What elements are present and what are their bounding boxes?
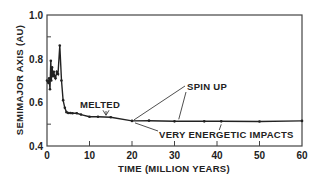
- data-point: [48, 77, 51, 80]
- semimajor-axis-chart: 01020304050600.40.60.81.0 SEMIMAJOR AXIS…: [0, 0, 318, 182]
- annotation-melted: MELTED: [80, 99, 120, 110]
- data-point: [50, 60, 53, 63]
- data-point: [75, 112, 78, 115]
- data-point: [71, 112, 74, 115]
- x-tick-label: 60: [296, 150, 308, 161]
- series-line: [47, 46, 302, 122]
- y-tick-label: 0.6: [29, 97, 43, 108]
- x-axis-title: TIME (MILLION YEARS): [118, 163, 230, 174]
- x-tick-label: 10: [84, 150, 96, 161]
- data-point: [62, 99, 65, 102]
- annotations: [103, 86, 221, 131]
- y-tick-label: 0.4: [29, 141, 43, 152]
- data-point: [131, 120, 134, 123]
- data-point: [148, 119, 151, 122]
- data-point: [49, 88, 52, 91]
- data-point: [50, 79, 53, 82]
- data-point: [258, 120, 261, 123]
- data-point: [64, 106, 67, 109]
- x-tick-label: 30: [169, 150, 181, 161]
- annotation-spin-up: SPIN UP: [187, 81, 227, 92]
- data-point: [60, 79, 63, 82]
- data-point: [203, 120, 206, 123]
- y-tick-label: 1.0: [29, 10, 43, 21]
- data-point: [54, 77, 57, 80]
- x-tick-label: 50: [254, 150, 266, 161]
- data-point: [173, 120, 176, 123]
- data-point: [80, 113, 83, 116]
- data-point: [51, 66, 54, 69]
- plot-border: [47, 15, 302, 146]
- plot-frame: [47, 15, 302, 146]
- data-point: [53, 70, 56, 73]
- data-point: [57, 73, 60, 76]
- data-point: [109, 116, 112, 119]
- data-point: [58, 44, 61, 47]
- x-tick-label: 20: [126, 150, 138, 161]
- x-tick-label: 40: [211, 150, 223, 161]
- x-tick-label: 0: [44, 150, 50, 161]
- data-point: [88, 115, 91, 118]
- annotation-very-energetic-impacts: VERY ENERGETIC IMPACTS: [159, 129, 294, 140]
- data-point: [47, 81, 50, 84]
- data-point: [97, 115, 100, 118]
- y-axis-title: SEMIMAJOR AXIS (AU): [14, 25, 25, 135]
- data-point: [46, 79, 49, 82]
- y-tick-label: 0.8: [29, 54, 43, 65]
- data-point: [55, 70, 58, 73]
- data-point: [220, 120, 223, 123]
- data-point: [301, 120, 304, 123]
- data-series: [46, 44, 304, 123]
